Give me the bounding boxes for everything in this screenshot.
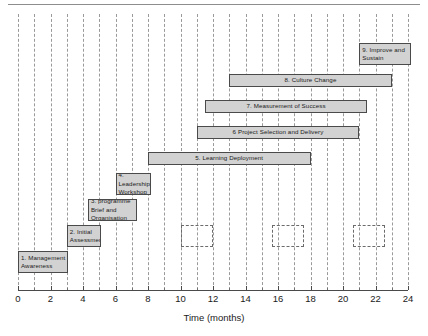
x-tick-14 xyxy=(246,286,247,290)
gridline-month-7 xyxy=(132,14,133,290)
x-tick-19 xyxy=(327,288,328,290)
x-tick-1 xyxy=(34,288,35,290)
x-tick-3 xyxy=(67,288,68,290)
x-tick-label-14: 14 xyxy=(240,293,251,304)
x-tick-11 xyxy=(197,288,198,290)
x-tick-label-20: 20 xyxy=(338,293,349,304)
gridline-month-0 xyxy=(18,14,19,290)
gantt-task-bar-8: 8. Culture Change xyxy=(229,74,392,87)
x-tick-5 xyxy=(99,288,100,290)
x-tick-label-24: 24 xyxy=(403,293,414,304)
x-tick-7 xyxy=(132,288,133,290)
gantt-task-bar-1: 1. Management Awareness xyxy=(18,251,68,273)
x-tick-label-18: 18 xyxy=(305,293,316,304)
x-axis: Time (months) 024681012141618202224 xyxy=(0,290,428,336)
x-tick-18 xyxy=(311,286,312,290)
top-divider-rule xyxy=(8,4,420,5)
gridline-month-19 xyxy=(327,14,328,290)
gantt-task-bar-2: 2. Initial Assessment xyxy=(67,225,101,247)
x-tick-label-0: 0 xyxy=(15,293,20,304)
x-tick-label-6: 6 xyxy=(113,293,118,304)
gantt-task-bar-5: 5. Learning Deployment xyxy=(148,152,311,165)
gridline-month-1 xyxy=(34,14,35,290)
x-tick-8 xyxy=(148,286,149,290)
gantt-task-bar-4: 4. Leadership Workshop xyxy=(116,173,152,195)
x-tick-label-2: 2 xyxy=(48,293,53,304)
x-tick-15 xyxy=(262,288,263,290)
gridline-month-6 xyxy=(116,14,117,290)
gridline-month-5 xyxy=(99,14,100,290)
x-tick-16 xyxy=(278,286,279,290)
gantt-task-bar-6: 6 Project Selection and Delivery xyxy=(197,126,360,139)
gridline-month-3 xyxy=(67,14,68,290)
x-tick-12 xyxy=(213,286,214,290)
x-tick-4 xyxy=(83,286,84,290)
x-tick-20 xyxy=(343,286,344,290)
x-tick-label-10: 10 xyxy=(175,293,186,304)
gridline-month-4 xyxy=(83,14,84,290)
gridline-month-2 xyxy=(51,14,52,290)
x-tick-10 xyxy=(181,286,182,290)
x-tick-22 xyxy=(376,286,377,290)
gantt-task-bar-9: 9. Improve and Sustain xyxy=(359,43,411,65)
x-tick-label-4: 4 xyxy=(80,293,85,304)
x-tick-label-8: 8 xyxy=(145,293,150,304)
gantt-task-bar-7: 7. Measurement of Success xyxy=(205,100,368,113)
x-tick-label-22: 22 xyxy=(370,293,381,304)
gridline-month-18 xyxy=(311,14,312,290)
x-tick-9 xyxy=(164,288,165,290)
x-tick-label-12: 12 xyxy=(208,293,219,304)
x-axis-line xyxy=(18,290,408,291)
gridline-month-20 xyxy=(343,14,344,290)
gantt-chart: 9. Improve and Sustain8. Culture Change7… xyxy=(0,0,428,336)
x-tick-0 xyxy=(18,286,19,290)
milestone-box-2 xyxy=(272,225,305,247)
gantt-task-bar-3: 3. programme Brief and Organisation xyxy=(88,199,137,221)
x-tick-6 xyxy=(116,286,117,290)
milestone-box-3 xyxy=(353,225,386,247)
gantt-plot-area: 9. Improve and Sustain8. Culture Change7… xyxy=(0,14,428,290)
x-tick-23 xyxy=(392,288,393,290)
x-tick-21 xyxy=(359,288,360,290)
x-tick-2 xyxy=(51,286,52,290)
x-tick-13 xyxy=(229,288,230,290)
milestone-box-1 xyxy=(181,225,214,247)
x-tick-17 xyxy=(294,288,295,290)
x-axis-title: Time (months) xyxy=(0,312,428,323)
x-tick-label-16: 16 xyxy=(273,293,284,304)
x-tick-24 xyxy=(408,286,409,290)
